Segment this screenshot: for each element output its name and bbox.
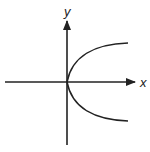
x-axis-label: x (139, 75, 147, 90)
diagram: x y (0, 0, 150, 152)
y-axis-label: y (63, 4, 72, 19)
